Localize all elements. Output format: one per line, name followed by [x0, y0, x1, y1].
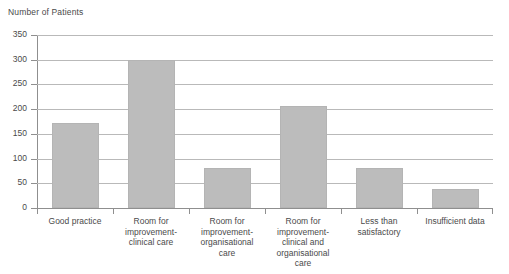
category-label-line: improvement-: [265, 227, 341, 238]
y-tick-label: 150: [0, 128, 27, 138]
bar-chart: Number of Patients 050100150200250300350…: [0, 0, 509, 274]
category-label-line: organisational: [189, 237, 265, 248]
y-tick-label: 250: [0, 78, 27, 88]
category-tick: [37, 208, 38, 214]
category-label: Room forimprovement-organisationalcare: [189, 216, 265, 258]
category-tick: [189, 208, 190, 214]
bar: [356, 168, 403, 208]
y-tick-label: 350: [0, 29, 27, 39]
category-tick: [341, 208, 342, 214]
category-label-line: Room for: [189, 216, 265, 227]
category-label-line: Insufficient data: [417, 216, 493, 227]
gridline: [37, 35, 493, 36]
y-tick-label: 0: [0, 202, 27, 212]
y-axis-ticks: 050100150200250300350: [0, 0, 37, 274]
bar: [432, 189, 479, 208]
category-label-line: Less than: [341, 216, 417, 227]
bar: [52, 123, 99, 208]
category-tick: [113, 208, 114, 214]
category-label-line: care: [189, 248, 265, 259]
bar: [128, 60, 175, 208]
gridline: [37, 60, 493, 61]
category-label-line: clinical care: [113, 237, 189, 248]
plot-area: [37, 35, 493, 208]
y-tick-label: 200: [0, 103, 27, 113]
category-label: Insufficient data: [417, 216, 493, 227]
category-label-line: satisfactory: [341, 227, 417, 238]
y-tick-label: 300: [0, 54, 27, 64]
bar: [280, 106, 327, 208]
category-label: Good practice: [37, 216, 113, 227]
y-tick-label: 50: [0, 177, 27, 187]
category-label-line: care: [265, 258, 341, 269]
bar: [204, 168, 251, 208]
gridline: [37, 84, 493, 85]
gridline: [37, 109, 493, 110]
category-label: Room forimprovement-clinical andorganisa…: [265, 216, 341, 269]
category-axis: Good practiceRoom forimprovement-clinica…: [37, 208, 493, 274]
y-tick-label: 100: [0, 153, 27, 163]
category-label-line: Room for: [265, 216, 341, 227]
category-tick: [265, 208, 266, 214]
gridline: [37, 134, 493, 135]
category-label-line: Room for: [113, 216, 189, 227]
gridline: [37, 183, 493, 184]
category-label: Room forimprovement-clinical care: [113, 216, 189, 248]
gridline: [37, 159, 493, 160]
category-label-line: clinical and: [265, 237, 341, 248]
category-label: Less thansatisfactory: [341, 216, 417, 237]
category-label-line: organisational: [265, 248, 341, 259]
category-tick: [417, 208, 418, 214]
category-label-line: improvement-: [189, 227, 265, 238]
category-label-line: Good practice: [37, 216, 113, 227]
category-tick: [492, 208, 493, 214]
category-label-line: improvement-: [113, 227, 189, 238]
